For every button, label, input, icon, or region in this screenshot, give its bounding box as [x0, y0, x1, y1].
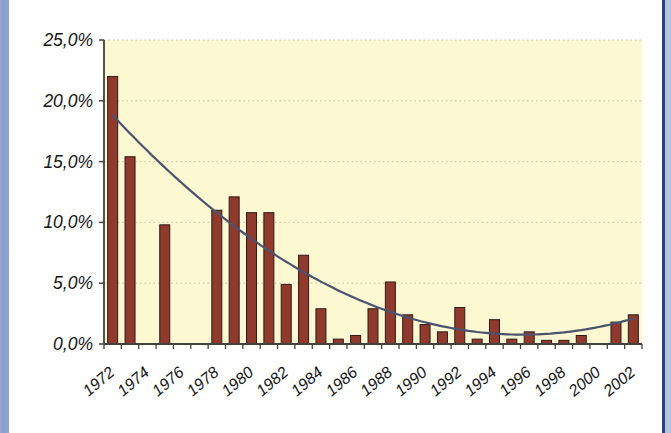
bar-1984 — [316, 309, 326, 344]
x-axis-label: 1978 — [184, 363, 222, 399]
x-axis-label: 1988 — [357, 363, 395, 399]
bar-1983 — [299, 255, 309, 344]
bar-1986 — [351, 335, 361, 344]
y-axis-label: 20,0% — [42, 91, 93, 111]
x-axis-label: 1972 — [79, 363, 117, 399]
x-axis-label: 1984 — [288, 363, 326, 399]
x-axis-label: 2002 — [599, 363, 638, 400]
bar-1987 — [368, 309, 378, 344]
y-axis-label: 0,0% — [53, 334, 93, 354]
x-axis-label: 2000 — [565, 363, 604, 400]
x-axis-label: 1992 — [427, 363, 465, 399]
bar-1991 — [437, 332, 447, 344]
bar-1981 — [264, 213, 274, 344]
x-axis-label: 1998 — [531, 363, 569, 399]
y-axis-label: 10,0% — [43, 212, 93, 232]
page: 0,0%5,0%10,0%15,0%20,0%25,0%197219741976… — [0, 0, 671, 433]
bar-1990 — [420, 325, 430, 344]
x-axis-label: 1990 — [392, 363, 430, 399]
bar-1999 — [576, 335, 586, 344]
x-axis-label: 1982 — [253, 363, 291, 399]
bar-1980 — [247, 213, 257, 344]
x-axis-label: 1994 — [461, 363, 499, 399]
bar-2001 — [611, 322, 621, 344]
x-axis-label: 1974 — [114, 363, 152, 399]
plot-area-background — [104, 40, 642, 344]
x-axis-label: 1986 — [322, 363, 360, 399]
y-axis-label: 5,0% — [53, 273, 93, 293]
bar-1992 — [455, 308, 465, 344]
bar-1979 — [229, 197, 239, 344]
y-axis-label: 15,0% — [43, 152, 93, 172]
bar-1994 — [489, 320, 499, 344]
bar-1973 — [125, 157, 135, 344]
bar-1975 — [160, 225, 170, 344]
bar-chart: 0,0%5,0%10,0%15,0%20,0%25,0%197219741976… — [0, 0, 671, 433]
y-axis-label: 25,0% — [42, 30, 93, 50]
x-axis-label: 1976 — [149, 363, 187, 399]
x-axis-label: 1980 — [218, 363, 256, 399]
bar-1982 — [281, 284, 291, 344]
bar-1978 — [212, 210, 222, 344]
x-axis-label: 1996 — [496, 363, 534, 399]
